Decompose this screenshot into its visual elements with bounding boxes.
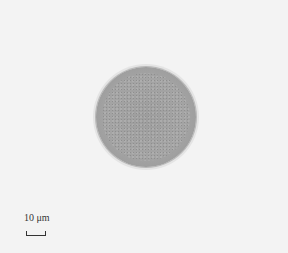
scale-bar [26,231,46,236]
round-cell [96,67,196,167]
cell-texture [102,73,190,161]
scale-bar-label: 10 μm [24,212,50,223]
